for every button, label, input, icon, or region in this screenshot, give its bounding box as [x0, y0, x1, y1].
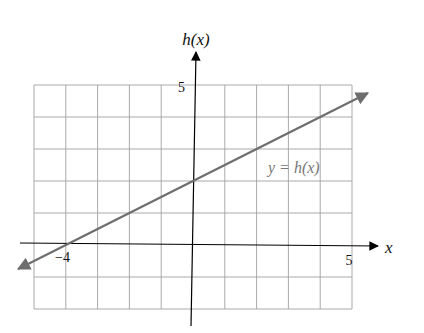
x-axis-label: x	[384, 238, 393, 257]
y-axis	[191, 52, 196, 326]
x-tick-neg4: −4	[55, 250, 70, 265]
y-tick-5: 5	[178, 80, 185, 95]
y-axis-label: h(x)	[182, 30, 210, 49]
graph: h(x) x 5 −4 5 y = h(x)	[0, 0, 424, 333]
x-axis	[20, 243, 378, 246]
curve-label: y = h(x)	[266, 159, 320, 177]
x-tick-5: 5	[346, 253, 353, 268]
